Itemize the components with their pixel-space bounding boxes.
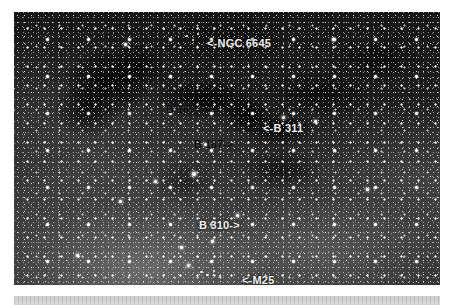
page-root: <-NGC 6645 B 167-> <-B 311 B 187-> B 310…	[0, 0, 461, 308]
bright-star	[314, 120, 317, 123]
annotation-label-b167: B 167->	[166, 104, 205, 115]
ngc6645-cluster-star	[192, 39, 194, 41]
m25-cluster-star	[219, 275, 221, 277]
ngc6645-cluster-star	[197, 33, 199, 35]
bright-star	[192, 172, 196, 176]
bottom-bar-texture	[14, 296, 440, 305]
annotation-label-m25: <-M25	[242, 275, 275, 285]
bright-star	[154, 180, 157, 183]
annotation-label-b187: B 187->	[194, 139, 233, 150]
bright-star	[76, 254, 79, 257]
m25-cluster-star	[213, 270, 215, 272]
bright-star	[187, 264, 190, 267]
annotation-label-ngc6645: <-NGC 6645	[207, 38, 271, 49]
bright-star	[211, 240, 214, 243]
bright-star	[366, 188, 369, 191]
bright-star	[282, 116, 285, 119]
annotation-label-b311: <-B 311	[263, 123, 303, 134]
bright-star	[119, 200, 122, 203]
bottom-gray-bar	[14, 296, 440, 305]
bright-star	[124, 43, 127, 46]
annotation-label-b310: B 310->	[199, 220, 240, 231]
ngc6645-cluster-star	[186, 35, 188, 37]
bright-star	[180, 246, 183, 249]
m25-cluster-star	[200, 271, 203, 273]
m25-cluster-star	[206, 274, 209, 276]
bright-star	[236, 214, 239, 217]
bright-star	[332, 38, 335, 41]
astrophoto-image: <-NGC 6645 B 167-> <-B 311 B 187-> B 310…	[14, 12, 440, 285]
